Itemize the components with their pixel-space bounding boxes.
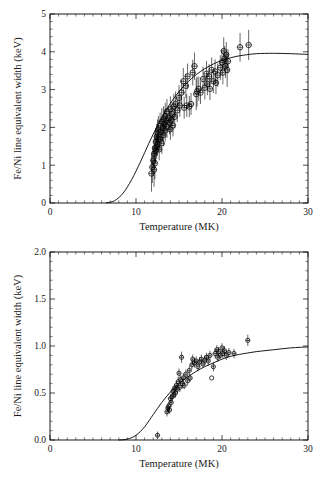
top-plot-canvas: 0102030012345Temperature (MK)Fe/Ni line … <box>0 0 325 242</box>
y-tick-label: 0 <box>41 198 46 208</box>
x-tick-label: 0 <box>48 444 53 454</box>
x-axis-title: Temperature (MK) <box>139 458 219 470</box>
y-tick-labels: 012345 <box>41 9 46 208</box>
x-tick-label: 0 <box>48 207 53 217</box>
bottom-plot-canvas: 01020300.00.51.01.52.0Temperature (MK)Fe… <box>0 242 325 484</box>
data-points-group <box>148 30 251 192</box>
y-tick-labels: 0.00.51.01.52.0 <box>34 247 46 445</box>
x-axis-title: Temperature (MK) <box>139 221 219 233</box>
y-tick-label: 3 <box>41 85 46 95</box>
y-tick-label: 1.0 <box>34 341 46 351</box>
x-tick-label: 10 <box>131 207 141 217</box>
x-tick-label: 10 <box>131 444 141 454</box>
x-tick-labels: 0102030 <box>48 207 313 217</box>
y-tick-label: 0.5 <box>34 388 46 398</box>
x-tick-label: 20 <box>217 444 227 454</box>
x-tick-label: 30 <box>303 207 313 217</box>
panel-top: 0102030012345Temperature (MK)Fe/Ni line … <box>0 0 325 242</box>
y-axis-title: Fe/Ni line equivalent width (keV) <box>12 274 24 417</box>
panel-bottom: 01020300.00.51.01.52.0Temperature (MK)Fe… <box>0 242 325 484</box>
data-points-group <box>155 335 250 439</box>
axis-ticks <box>50 252 308 440</box>
y-tick-label: 2 <box>41 123 46 133</box>
y-axis-title: Fe/Ni line equivalent width (keV) <box>12 37 24 180</box>
x-tick-label: 20 <box>217 207 227 217</box>
fit-curve <box>119 347 308 440</box>
y-tick-label: 0.0 <box>34 435 46 445</box>
figure-two-panel-scatter: 0102030012345Temperature (MK)Fe/Ni line … <box>0 0 325 484</box>
y-tick-label: 2.0 <box>34 247 46 257</box>
data-point-marker <box>210 376 214 380</box>
fit-curve <box>106 53 308 203</box>
x-tick-label: 30 <box>303 444 313 454</box>
y-tick-label: 4 <box>41 47 46 57</box>
y-tick-label: 5 <box>41 9 46 19</box>
y-tick-label: 1 <box>41 161 46 171</box>
y-tick-label: 1.5 <box>34 294 46 304</box>
plot-frame <box>50 252 308 440</box>
x-tick-labels: 0102030 <box>48 444 313 454</box>
